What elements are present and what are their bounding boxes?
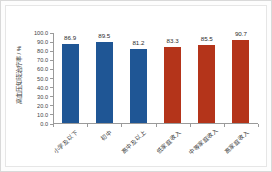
y-axis-tick-label: 100.0 bbox=[34, 29, 48, 37]
y-axis-tick-mark bbox=[50, 114, 53, 115]
y-axis-tick: 60.0 bbox=[3, 65, 53, 73]
y-axis-tick-label: 0.0 bbox=[40, 120, 48, 128]
y-axis-tick-mark bbox=[50, 96, 53, 97]
x-axis-tick-mark bbox=[87, 124, 88, 127]
x-axis-tick-mark bbox=[258, 124, 259, 127]
x-axis-tick-mark bbox=[53, 124, 54, 127]
bar[interactable]: 83.3 bbox=[164, 47, 181, 123]
y-axis-tick-mark bbox=[50, 51, 53, 52]
y-axis-tick-mark bbox=[50, 33, 53, 34]
bar-value-label: 83.3 bbox=[167, 37, 179, 45]
y-axis-line bbox=[53, 33, 54, 124]
x-axis-tick-mark bbox=[156, 124, 157, 127]
chart-figure: 高血压知晓治疗率 / % 100.090.080.070.060.050.040… bbox=[0, 0, 272, 172]
plot-area: 100.090.080.070.060.050.040.030.020.010.… bbox=[53, 33, 258, 124]
x-axis-tick-mark bbox=[224, 124, 225, 127]
y-axis-tick-label: 50.0 bbox=[37, 75, 48, 83]
y-axis-tick: 90.0 bbox=[3, 38, 53, 46]
bar[interactable]: 89.5 bbox=[96, 42, 113, 123]
y-axis-tick: 20.0 bbox=[3, 102, 53, 110]
y-axis-tick-label: 30.0 bbox=[37, 93, 48, 101]
y-axis-tick-mark bbox=[50, 42, 53, 43]
y-axis-tick: 70.0 bbox=[3, 56, 53, 64]
bar-value-label: 90.7 bbox=[235, 30, 247, 38]
y-axis-tick-label: 70.0 bbox=[37, 56, 48, 64]
y-axis-tick-label: 80.0 bbox=[37, 47, 48, 55]
y-axis-tick-label: 60.0 bbox=[37, 65, 48, 73]
y-axis-tick-label: 20.0 bbox=[37, 102, 48, 110]
bar[interactable]: 81.2 bbox=[130, 49, 147, 123]
y-axis-tick-mark bbox=[50, 78, 53, 79]
bar[interactable]: 90.7 bbox=[232, 40, 249, 123]
y-axis-tick-mark bbox=[50, 60, 53, 61]
y-axis-tick: 30.0 bbox=[3, 93, 53, 101]
y-axis-tick-mark bbox=[50, 69, 53, 70]
bar-value-label: 89.5 bbox=[98, 32, 110, 40]
bar-value-label: 81.2 bbox=[132, 39, 144, 47]
y-axis-tick-label: 90.0 bbox=[37, 38, 48, 46]
y-axis-tick-mark bbox=[50, 87, 53, 88]
x-axis-tick-mark bbox=[121, 124, 122, 127]
y-axis-tick: 40.0 bbox=[3, 84, 53, 92]
bar[interactable]: 86.9 bbox=[62, 44, 79, 123]
y-axis-tick: 80.0 bbox=[3, 47, 53, 55]
y-axis-tick: 100.0 bbox=[3, 29, 53, 37]
y-axis-tick-mark bbox=[50, 105, 53, 106]
y-axis-tick: 50.0 bbox=[3, 75, 53, 83]
bar[interactable]: 85.5 bbox=[198, 45, 215, 123]
bar-value-label: 85.5 bbox=[201, 35, 213, 43]
y-axis-tick: 0.0 bbox=[3, 120, 53, 128]
bar-value-label: 86.9 bbox=[64, 34, 76, 42]
y-axis-tick-label: 10.0 bbox=[37, 111, 48, 119]
y-axis-tick: 10.0 bbox=[3, 111, 53, 119]
y-axis-tick-label: 40.0 bbox=[37, 84, 48, 92]
x-axis-tick-mark bbox=[190, 124, 191, 127]
